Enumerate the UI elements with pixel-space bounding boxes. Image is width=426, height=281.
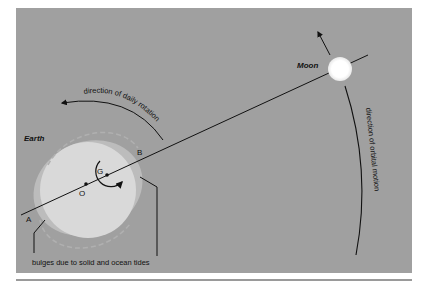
point-o-marker	[84, 182, 88, 186]
earth-label: Earth	[24, 134, 45, 143]
daily-rotation-arc-icon	[62, 101, 163, 140]
point-b-label: B	[137, 148, 142, 157]
point-g-marker	[105, 173, 109, 177]
point-a-label: A	[26, 215, 32, 224]
point-g-label: G	[97, 167, 103, 176]
point-o-label: O	[79, 189, 85, 198]
moon-label: Moon	[297, 61, 318, 70]
moon-body	[328, 57, 352, 81]
orbital-motion-label: direction of orbital motion	[364, 107, 382, 191]
bulge-leader-right	[140, 177, 157, 256]
earth-moon-axis	[21, 55, 368, 215]
bulge-leader-left	[34, 220, 45, 253]
bulges-caption: bulges due to solid and ocean tides	[32, 258, 150, 267]
daily-rotation-label: direction of daily rotation	[83, 86, 162, 123]
moon-velocity-arrow-icon	[318, 32, 330, 55]
orbital-motion-arc	[345, 86, 362, 255]
earth-moon-tide-diagram: Earth Moon A B G O direction of daily ro…	[0, 0, 426, 281]
